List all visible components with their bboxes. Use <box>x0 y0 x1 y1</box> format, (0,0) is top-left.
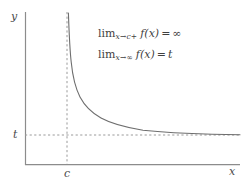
equation-block: limx→c+f(x)=∞ limx→∞f(x)=t <box>98 28 238 69</box>
equation-limit-at-infinity: limx→∞f(x)=t <box>98 49 238 62</box>
y-axis-label: y <box>11 11 17 22</box>
limit-operator-1: lim <box>98 27 115 40</box>
limit-operator-2: lim <box>98 48 115 61</box>
limit-value-2: t <box>168 48 172 61</box>
limit-figure: y x c t limx→c+f(x)=∞ limx→∞f(x)=t <box>0 0 248 188</box>
function-expression-2: f(x) <box>136 48 155 61</box>
relation-sign-1: = <box>159 27 172 40</box>
function-expression-1: f(x) <box>140 27 159 40</box>
limit-value-1: ∞ <box>172 27 181 40</box>
x-axis-label: x <box>229 166 235 177</box>
limit-subscript-target-1: c+ <box>126 32 137 41</box>
relation-sign-2: = <box>155 48 168 61</box>
limit-subscript-target-2: ∞ <box>126 53 132 62</box>
y-tick-label-t: t <box>13 129 17 140</box>
x-tick-label-c: c <box>64 168 70 179</box>
equation-limit-right-at-c: limx→c+f(x)=∞ <box>98 28 238 41</box>
